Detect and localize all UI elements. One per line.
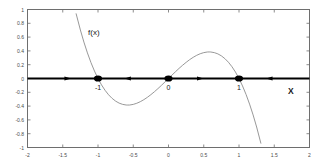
x-tick-label: -1 [96,152,100,158]
equilibrium-dot-stable [235,75,243,81]
x-tick-label: 1 [238,152,241,158]
equilibrium-dot-stable [94,75,102,81]
direction-arrow-right [197,76,204,80]
x-tick-label: 0 [167,152,170,158]
y-tick-label: -0.2 [2,89,24,95]
y-tick-label: 1 [2,7,24,13]
equilibrium-dot-unstable [164,75,172,81]
y-tick-label: 0.2 [2,62,24,68]
y-tick-label: 0 [2,76,24,82]
function-label: f(x) [88,28,100,37]
x-tick-label: -1.5 [58,152,67,158]
x-tick-label: -2 [25,152,29,158]
y-tick-label: 0.4 [2,48,24,54]
phase-line-figure: -1-0.8-0.6-0.4-0.200.20.40.60.81 -2-1.5-… [0,0,322,168]
x-tick-label: 1.5 [271,152,278,158]
y-tick-label: -0.6 [2,117,24,123]
y-tick-label: -0.8 [2,131,24,137]
direction-arrow-left [124,76,131,80]
x-axis-label: X [288,86,294,96]
y-tick-label: 0.8 [2,20,24,26]
plot-canvas [0,0,322,168]
equilibrium-label-minus-one: -1 [95,84,101,91]
y-tick-label: -0.4 [2,103,24,109]
equilibrium-label-zero: 0 [167,84,171,91]
x-tick-label: -0.5 [129,152,138,158]
x-tick-label: 2 [308,152,311,158]
y-tick-label: -1 [2,145,24,151]
direction-arrow-left [266,76,273,80]
x-tick-label: 0.5 [200,152,207,158]
y-tick-label: 0.6 [2,34,24,40]
direction-arrow-right [64,76,71,80]
equilibrium-label-one: 1 [237,84,241,91]
